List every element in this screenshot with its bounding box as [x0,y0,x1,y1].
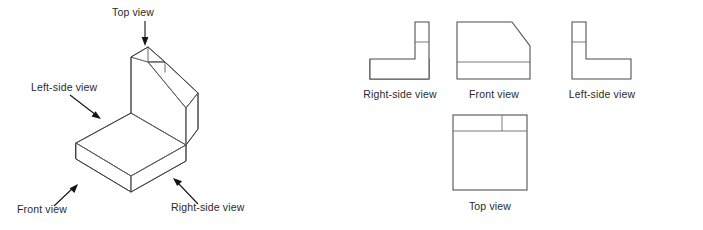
ortho-label-front-view: Front view [444,88,544,100]
view-front [457,22,530,79]
isometric-panel: Top view Left-side view Front view Right… [0,0,340,230]
leader-top-view [142,21,149,46]
top-outline [453,115,527,190]
leader-left-side-view [70,95,101,119]
iso-label-left-side-view: Left-side view [31,81,97,93]
isometric-drawing [0,0,340,230]
orthographic-panel: Right-side view Front view Left-side vie… [340,0,703,230]
iso-label-right-side-view: Right-side view [171,201,244,213]
right-side-outline [370,22,429,79]
drawing-sheet: Top view Left-side view Front view Right… [0,0,703,230]
left-side-outline [572,22,631,79]
iso-label-front-view: Front view [17,203,67,215]
ortho-label-top-view: Top view [440,200,540,212]
ortho-label-right-side-view: Right-side view [350,88,450,100]
front-outline [457,22,530,79]
iso-label-top-view: Top view [112,6,154,18]
view-top [453,115,527,190]
view-right-side [370,22,429,79]
view-left-side [572,22,631,79]
ortho-label-left-side-view: Left-side view [552,88,652,100]
orthographic-views [340,0,703,230]
